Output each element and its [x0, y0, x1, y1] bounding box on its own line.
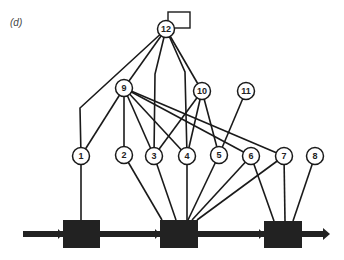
edge-12-10 — [166, 29, 202, 91]
node-label: 11 — [241, 86, 251, 96]
node-label: 8 — [312, 151, 317, 161]
node-label: 9 — [121, 83, 126, 93]
node-label: 7 — [281, 151, 286, 161]
node-3: 3 — [146, 148, 163, 165]
node-11: 11 — [238, 83, 255, 100]
node-label: 3 — [151, 151, 156, 161]
node-label: 6 — [248, 151, 253, 161]
node-5: 5 — [211, 147, 228, 164]
edge-12-9 — [124, 29, 166, 88]
box-1 — [63, 220, 100, 248]
edges — [80, 29, 315, 221]
node-7: 7 — [276, 148, 293, 165]
node-6: 6 — [243, 148, 260, 165]
edge-8-box-3 — [293, 156, 315, 221]
node-9: 9 — [116, 80, 133, 97]
node-label: 2 — [121, 150, 126, 160]
node-label: 5 — [216, 150, 221, 160]
node-4: 4 — [179, 148, 196, 165]
box-2 — [160, 220, 198, 248]
edge-6-box-2 — [192, 156, 251, 220]
node-label: 12 — [161, 24, 171, 34]
node-8: 8 — [307, 148, 324, 165]
node-10: 10 — [194, 83, 211, 100]
node-12: 12 — [158, 21, 175, 38]
node-2: 2 — [116, 147, 133, 164]
box-3 — [264, 221, 302, 248]
node-label: 4 — [184, 151, 189, 161]
network-diagram: 123456789101112 — [0, 0, 344, 260]
edge-7-box-3 — [284, 156, 285, 221]
edge-5-box-2 — [188, 155, 219, 220]
edge-9-1 — [81, 88, 124, 156]
node-label: 10 — [197, 86, 207, 96]
node-1: 1 — [73, 148, 90, 165]
edge-12-3 — [154, 29, 166, 156]
node-label: 1 — [78, 151, 83, 161]
